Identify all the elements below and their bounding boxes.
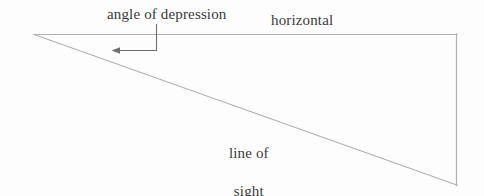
label-line-of-sight-line1: line of: [229, 145, 269, 161]
angle-of-depression-diagram: angle of depression horizontal line of s…: [0, 0, 484, 196]
label-line-of-sight-line2: sight: [234, 183, 264, 196]
label-line-of-sight: line of sight: [196, 125, 286, 196]
label-angle-of-depression: angle of depression: [107, 6, 226, 23]
angle-leader-line: [114, 24, 157, 51]
leader-arrowhead-icon: [112, 47, 121, 54]
label-horizontal: horizontal: [271, 12, 333, 29]
